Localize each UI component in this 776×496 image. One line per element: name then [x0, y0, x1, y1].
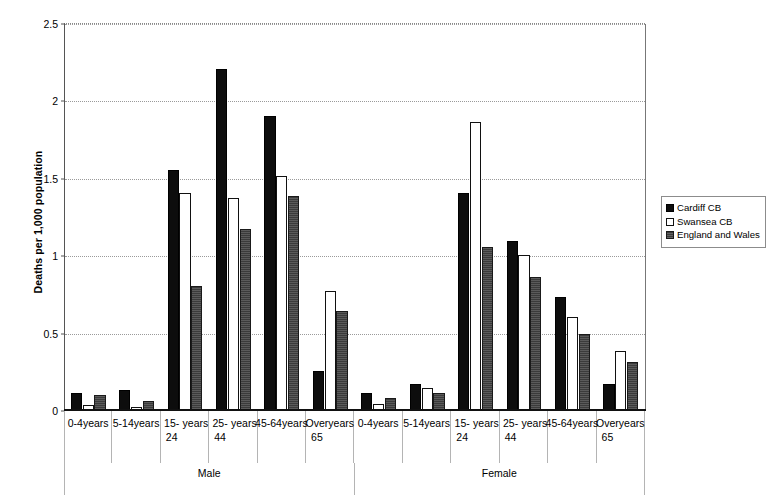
category-label-line: 15-24 [451, 417, 473, 444]
bar [410, 384, 421, 410]
bar [361, 393, 372, 410]
category-label-line: 64years [561, 417, 598, 431]
legend-item: Swansea CB [666, 216, 760, 229]
chart-legend: Cardiff CB Swansea CB England and Wales [661, 196, 766, 248]
y-tick-label: 2 [52, 95, 58, 107]
category-label: 0-4years [64, 411, 112, 463]
category-label: 25-44years [500, 411, 548, 463]
category-label: Over 65years [597, 411, 645, 463]
bar [579, 334, 590, 410]
legend-swatch-icon [666, 218, 674, 226]
bar [336, 311, 347, 410]
legend-item: Cardiff CB [666, 202, 760, 215]
bar [422, 388, 433, 410]
bar [240, 229, 251, 410]
group-label: Female [355, 463, 646, 495]
category-label-line: 0-4years [358, 417, 399, 431]
category-label: 5-14years [112, 411, 160, 463]
category-label-line: Over 65 [306, 417, 329, 444]
bar [470, 122, 481, 410]
bar-chart: Deaths per 1,000 population 00.511.522.5… [0, 0, 776, 496]
y-tick-label: 1 [52, 250, 58, 262]
bar [507, 241, 518, 410]
category-label: Over 65years [306, 411, 354, 463]
bar [288, 196, 299, 410]
bar [555, 297, 566, 410]
bar [191, 286, 202, 410]
bar [71, 393, 82, 410]
bar [276, 176, 287, 410]
plot-area: 00.511.522.5 [64, 23, 645, 410]
category-label-line: years [328, 417, 354, 431]
bar [264, 116, 275, 410]
legend-label: Cardiff CB [677, 202, 721, 215]
group-label: Male [64, 463, 355, 495]
y-tick-label: 1.5 [43, 173, 58, 185]
bar [482, 247, 493, 410]
legend-item: England and Wales [666, 229, 760, 242]
category-label-line: years [424, 417, 450, 431]
category-axis: 0-4years5-14years15-24years25-44years45-… [64, 411, 646, 463]
bar [518, 255, 529, 410]
legend-label: Swansea CB [677, 216, 732, 229]
category-label: 5-14years [403, 411, 451, 463]
category-label-line: 64years [270, 417, 307, 431]
bar [603, 384, 614, 410]
category-label-line: years [521, 417, 547, 431]
bar [313, 371, 324, 410]
category-label-line: 5-14 [403, 417, 424, 431]
y-axis-title: Deaths per 1,000 population [32, 92, 44, 352]
category-label-line: 45- [255, 417, 270, 431]
category-label-line: years [619, 417, 645, 431]
bar [228, 198, 239, 410]
category-label: 15-24years [161, 411, 209, 463]
bar [567, 317, 578, 410]
category-label: 45-64years [548, 411, 596, 463]
legend-label: England and Wales [677, 229, 760, 242]
group-axis: MaleFemale [64, 463, 646, 495]
bar [530, 277, 541, 410]
category-label-line: years [473, 417, 499, 431]
bar [433, 393, 444, 410]
bar [119, 390, 130, 410]
y-tick-label: 2.5 [43, 18, 58, 30]
y-tick-label: 0 [52, 405, 58, 417]
bar [458, 193, 469, 410]
category-label-line: 45- [546, 417, 561, 431]
category-label-line: 25-44 [500, 417, 522, 444]
category-label-line: years [134, 417, 160, 431]
category-label-line: 5-14 [113, 417, 134, 431]
bars-layer [65, 24, 645, 410]
category-label-line: 25-44 [209, 417, 231, 444]
category-label-line: years [231, 417, 257, 431]
category-label-line: Over 65 [596, 417, 619, 444]
category-label: 0-4years [355, 411, 403, 463]
bar [627, 362, 638, 410]
category-label-line: 0-4years [68, 417, 109, 431]
bar [325, 291, 336, 410]
legend-swatch-icon [666, 204, 674, 212]
bar [216, 69, 227, 410]
category-label-line: years [183, 417, 209, 431]
bar [179, 193, 190, 410]
legend-swatch-icon [666, 231, 674, 239]
y-tick-label: 0.5 [43, 328, 58, 340]
category-label: 15-24years [451, 411, 499, 463]
bar [615, 351, 626, 410]
category-label-line: 15-24 [161, 417, 183, 444]
bar [385, 398, 396, 410]
category-label: 45-64years [258, 411, 306, 463]
category-label: 25-44years [209, 411, 257, 463]
bar [168, 170, 179, 410]
bar [94, 395, 105, 410]
